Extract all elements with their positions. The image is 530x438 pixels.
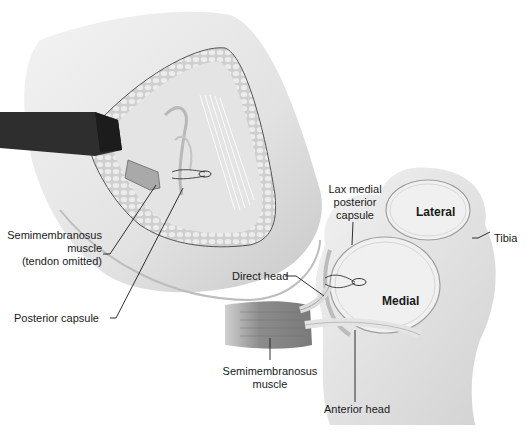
anatomy-figure: Semimembranosus muscle (tendon omitted) … (0, 0, 530, 438)
label-line: muscle (6, 242, 102, 255)
label-tibia: Tibia (494, 232, 517, 245)
label-semimembranosus-muscle: Semimembranosus muscle (222, 365, 318, 391)
label-line: Tibia (494, 232, 517, 244)
label-lax-medial-posterior-capsule: Lax medial posterior capsule (320, 183, 390, 222)
label-line: Posterior capsule (14, 312, 99, 324)
label-line: Medial (382, 294, 419, 308)
label-line: Anterior head (324, 403, 390, 415)
label-line: Direct head (232, 270, 288, 282)
label-line: muscle (222, 378, 318, 391)
label-line: Lax medial (320, 183, 390, 196)
label-posterior-capsule: Lax medial Posterior capsule (14, 312, 99, 325)
label-semimembranosus-tendon-omitted: Semimembranosus muscle (tendon omitted) (6, 229, 102, 268)
label-lateral: Lateral (416, 206, 455, 219)
label-line: Semimembranosus (6, 229, 102, 242)
label-line: Semimembranosus (222, 365, 318, 378)
label-direct-head: Direct head (232, 270, 288, 283)
label-line: posterior (320, 196, 390, 209)
label-medial: Medial (382, 295, 419, 308)
label-line: Lateral (416, 205, 455, 219)
label-line: (tendon omitted) (6, 255, 102, 268)
label-line: capsule (320, 209, 390, 222)
label-anterior-head: Anterior head (324, 403, 390, 416)
